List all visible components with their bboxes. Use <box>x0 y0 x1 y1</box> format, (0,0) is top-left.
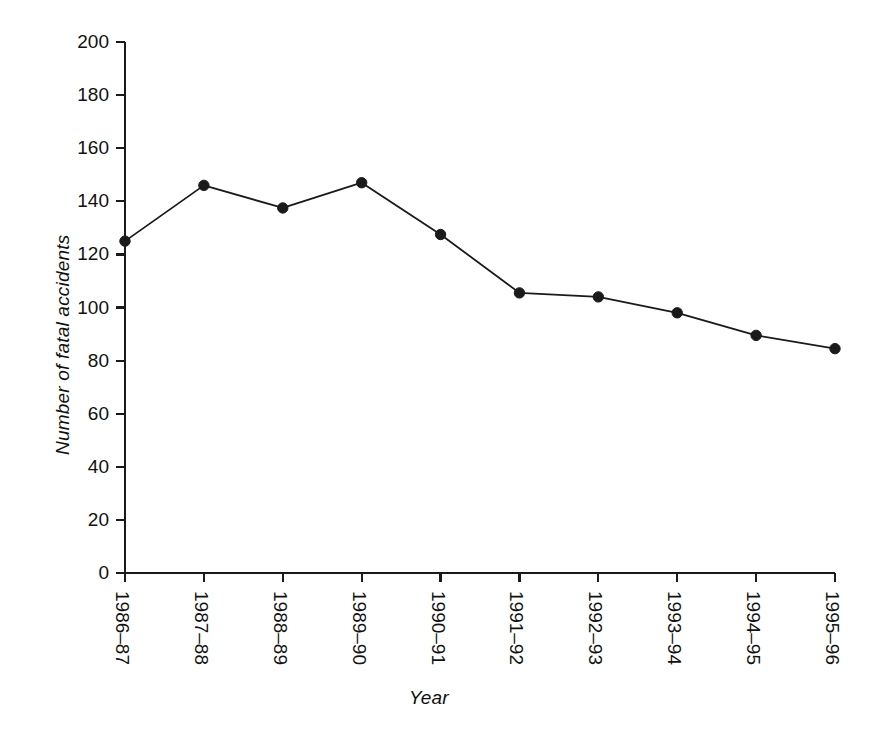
axis-spines <box>125 42 835 573</box>
data-point <box>120 236 130 246</box>
data-point <box>830 343 840 353</box>
data-point <box>672 308 682 318</box>
y-axis-ticks <box>116 42 125 573</box>
data-point <box>751 330 761 340</box>
chart-figure: Number of fatal accidents Year 020406080… <box>0 0 882 729</box>
data-point <box>199 180 209 190</box>
data-point <box>435 229 445 239</box>
data-line <box>125 183 835 349</box>
data-point <box>356 178 366 188</box>
data-point <box>514 288 524 298</box>
data-markers <box>120 178 840 354</box>
x-axis-ticks <box>125 573 835 582</box>
data-point <box>593 292 603 302</box>
data-point <box>278 203 288 213</box>
plot-area <box>0 0 882 729</box>
